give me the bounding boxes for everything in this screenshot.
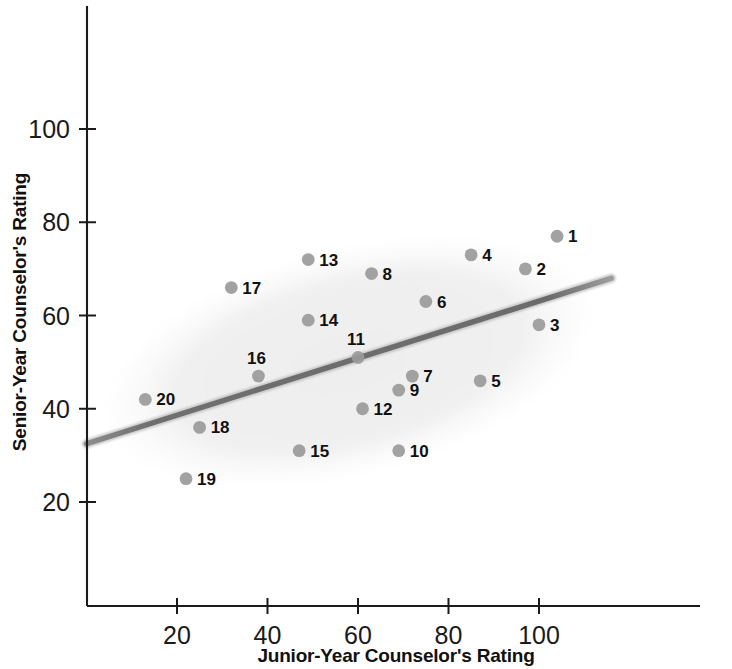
data-point-label: 18 [211,418,230,437]
data-point: 19 [180,470,216,489]
data-point-label: 6 [437,293,446,312]
data-point-marker [302,314,315,327]
data-point-label: 17 [242,279,261,298]
y-axis-title: Senior-Year Counselor's Rating [9,173,30,451]
data-point-label: 14 [319,311,338,330]
data-point-marker [293,444,306,457]
scatter-plot-figure: 2040608010020406080100 12345678910111213… [0,0,732,669]
data-point-label: 20 [156,390,175,409]
data-point-label: 3 [550,316,559,335]
data-point-label: 4 [482,246,492,265]
data-point-marker [465,248,478,261]
data-point-marker [533,318,546,331]
data-point-marker [365,267,378,280]
data-point-marker [551,230,564,243]
y-tick-label: 60 [42,302,70,330]
data-point-marker [352,351,365,364]
data-point-label: 19 [197,470,216,489]
data-point-label: 8 [383,265,392,284]
data-point-marker [392,444,405,457]
y-tick-label: 20 [42,488,70,516]
y-tick-label: 80 [42,208,70,236]
x-tick-label: 20 [163,621,191,649]
data-point-label: 1 [568,227,577,246]
data-point-marker [180,472,193,485]
data-point-marker [302,253,315,266]
data-point-marker [252,370,265,383]
y-tick-label: 100 [28,115,70,143]
y-tick-label: 40 [42,395,70,423]
data-point-label: 16 [247,349,266,368]
data-point-marker [392,384,405,397]
data-point-marker [519,262,532,275]
data-point-marker [139,393,152,406]
data-point-marker [419,295,432,308]
data-point-label: 12 [374,400,393,419]
data-point-label: 10 [410,442,429,461]
data-point-marker [474,374,487,387]
data-point-marker [193,421,206,434]
data-point-label: 15 [310,442,329,461]
data-point: 1 [551,227,578,246]
x-axis-title: Junior-Year Counselor's Rating [257,645,534,666]
data-point-label: 13 [319,251,338,270]
data-point-label: 11 [347,330,365,349]
data-point-marker [356,402,369,415]
data-point-label: 2 [536,260,545,279]
data-point-marker [225,281,238,294]
data-point-label: 9 [410,381,419,400]
data-point-label: 7 [423,367,432,386]
data-point-label: 5 [491,372,500,391]
plot-canvas: 2040608010020406080100 12345678910111213… [0,0,732,669]
